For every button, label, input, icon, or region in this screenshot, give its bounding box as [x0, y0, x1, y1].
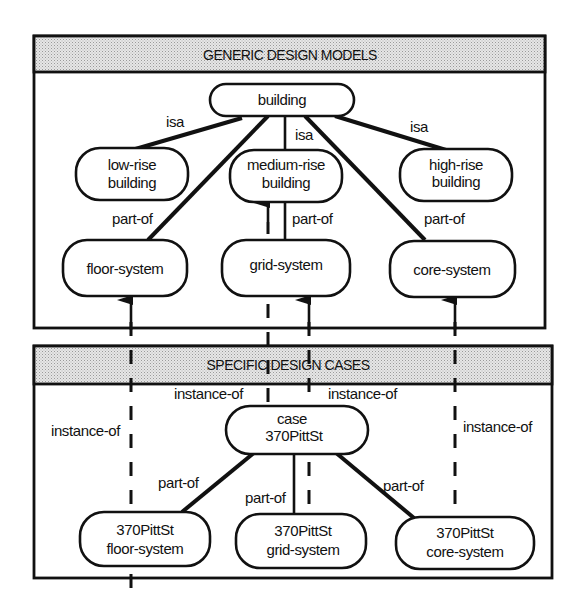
- svg-text:370PittSt: 370PittSt: [274, 522, 333, 539]
- svg-text:floor-system: floor-system: [87, 260, 164, 277]
- svg-text:building: building: [258, 91, 307, 108]
- label-partof-grid: part-of: [292, 210, 334, 227]
- generic-panel-title: GENERIC DESIGN MODELS: [203, 47, 377, 63]
- svg-text:building: building: [432, 173, 481, 190]
- node-medium-rise-building: medium-rise building: [230, 150, 342, 202]
- svg-text:core-system: core-system: [426, 543, 503, 560]
- svg-text:grid-system: grid-system: [249, 256, 322, 273]
- svg-text:core-system: core-system: [413, 261, 490, 278]
- svg-text:floor-system: floor-system: [107, 540, 184, 557]
- svg-text:medium-rise: medium-rise: [247, 156, 325, 173]
- svg-text:grid-system: grid-system: [266, 541, 339, 558]
- label-partof-case-core: part-of: [383, 477, 425, 494]
- label-partof-floor: part-of: [112, 210, 154, 227]
- svg-text:case: case: [277, 410, 307, 427]
- label-partof-case-floor: part-of: [158, 474, 200, 491]
- node-370pittst-grid-system: 370PittSt grid-system: [236, 514, 366, 568]
- svg-text:370PittSt: 370PittSt: [436, 524, 495, 541]
- label-isa-low-rise: isa: [166, 113, 185, 130]
- svg-text:building: building: [108, 174, 157, 191]
- label-partof-case-grid: part-of: [245, 489, 287, 506]
- design-knowledge-diagram: GENERIC DESIGN MODELS SPECIFIC DESIGN CA…: [0, 0, 579, 601]
- label-instance-of-mid-right: instance-of: [328, 385, 398, 402]
- node-floor-system: floor-system: [63, 240, 187, 296]
- node-low-rise-building: low-rise building: [76, 148, 188, 200]
- svg-text:low-rise: low-rise: [108, 156, 157, 173]
- label-partof-core: part-of: [424, 210, 466, 227]
- node-core-system: core-system: [390, 241, 515, 297]
- svg-text:370PittSt: 370PittSt: [116, 521, 175, 538]
- svg-text:high-rise: high-rise: [429, 156, 483, 173]
- node-case-370pittst: case 370PittSt: [226, 406, 368, 454]
- label-instance-of-left: instance-of: [51, 422, 121, 439]
- node-grid-system: grid-system: [222, 240, 350, 296]
- node-building: building: [210, 84, 354, 116]
- label-instance-of-mid-left: instance-of: [174, 385, 244, 402]
- label-instance-of-right: instance-of: [463, 418, 533, 435]
- svg-text:370PittSt: 370PittSt: [265, 427, 324, 444]
- label-isa-medium-rise: isa: [295, 126, 314, 143]
- label-isa-high-rise: isa: [410, 118, 429, 135]
- node-370pittst-core-system: 370PittSt core-system: [396, 517, 534, 569]
- node-370pittst-floor-system: 370PittSt floor-system: [80, 512, 210, 566]
- specific-panel-title: SPECIFIC DESIGN CASES: [207, 357, 370, 373]
- svg-text:building: building: [262, 174, 311, 191]
- node-high-rise-building: high-rise building: [400, 149, 512, 201]
